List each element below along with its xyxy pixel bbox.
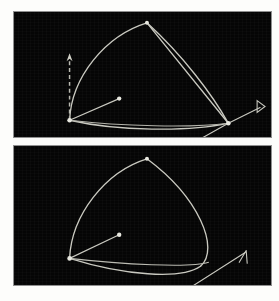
panel-divider	[13, 138, 272, 145]
figure-root	[0, 0, 279, 301]
bottom-panel-strokes	[70, 159, 246, 285]
left-node	[67, 256, 72, 261]
top-panel-nodes	[67, 21, 230, 137]
bottom-panel	[13, 145, 272, 286]
mid-dot	[117, 96, 121, 100]
left-node	[67, 118, 72, 123]
lower-dot	[117, 233, 121, 237]
right-node	[226, 121, 231, 126]
open-triangle-marker	[257, 101, 265, 113]
dashed-axis-arrowhead	[67, 53, 73, 61]
top-panel-strokes	[70, 23, 261, 137]
outer-upper-arc	[70, 159, 147, 259]
left-tangent	[70, 235, 120, 259]
top-panel-canvas	[14, 12, 271, 137]
line-arrowhead-marker	[239, 250, 247, 263]
apex-node	[145, 157, 149, 161]
apex-right-edge	[147, 23, 228, 123]
arrow-stem	[190, 252, 246, 285]
lower-sweep	[70, 120, 229, 129]
right-lobe	[147, 159, 208, 266]
arrow-stem	[228, 107, 260, 123]
top-panel	[13, 11, 272, 138]
apex-node	[145, 21, 149, 25]
left-tangent	[70, 99, 120, 121]
bottom-panel-canvas	[14, 146, 271, 285]
outer-upper-arc	[70, 23, 147, 120]
